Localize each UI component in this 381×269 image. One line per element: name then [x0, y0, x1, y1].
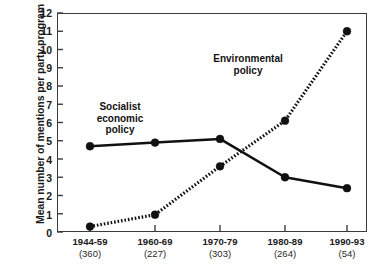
- x-tick-1944-59: 1944-59 (360): [55, 236, 125, 260]
- x-tick-period: 1980-89: [250, 236, 320, 248]
- annotation-environmental-policy: Environmental policy: [198, 53, 298, 76]
- x-tick-1990-93: 1990-93 (54): [312, 236, 381, 260]
- x-tick-period: 1990-93: [312, 236, 381, 248]
- x-tick-count: (360): [55, 248, 125, 260]
- x-tick-count: (54): [312, 248, 381, 260]
- y-tick-7: 7: [34, 100, 52, 111]
- y-tick-1: 1: [34, 210, 52, 221]
- annotation-line-2: economic: [78, 113, 162, 125]
- y-tick-10: 10: [34, 45, 52, 56]
- y-tick-8: 8: [34, 81, 52, 92]
- x-tick-1960-69: 1960-69 (227): [120, 236, 190, 260]
- annotation-socialist-economic-policy: Socialist economic policy: [78, 101, 162, 136]
- y-tick-5: 5: [34, 136, 52, 147]
- x-tick-count: (303): [185, 248, 255, 260]
- x-tick-period: 1960-69: [120, 236, 190, 248]
- y-tick-2: 2: [34, 191, 52, 202]
- y-tick-6: 6: [34, 118, 52, 129]
- y-tick-0: 0: [34, 228, 52, 239]
- x-tick-count: (227): [120, 248, 190, 260]
- annotation-line-1: Environmental: [198, 53, 298, 65]
- y-tick-4: 4: [34, 155, 52, 166]
- y-tick-11: 11: [34, 26, 52, 37]
- annotation-line-3: policy: [78, 124, 162, 136]
- y-tick-12: 12: [34, 8, 52, 19]
- y-tick-3: 3: [34, 173, 52, 184]
- chart-figure: Mean number of mentions per party progra…: [0, 0, 381, 269]
- annotation-line-1: Socialist: [78, 101, 162, 113]
- x-tick-1970-79: 1970-79 (303): [185, 236, 255, 260]
- x-tick-period: 1970-79: [185, 236, 255, 248]
- x-tick-count: (264): [250, 248, 320, 260]
- x-tick-1980-89: 1980-89 (264): [250, 236, 320, 260]
- x-tick-period: 1944-59: [55, 236, 125, 248]
- y-axis-tick-labels: 12 11 10 9 8 7 6 5 4 3 2 1 0: [30, 0, 52, 269]
- annotation-line-2: policy: [198, 65, 298, 77]
- y-tick-9: 9: [34, 63, 52, 74]
